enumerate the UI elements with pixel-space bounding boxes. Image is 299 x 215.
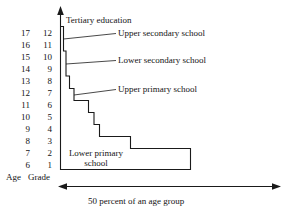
- annotation-leader-lines: [64, 34, 117, 96]
- age-tick-17: 17: [8, 28, 30, 38]
- education-pyramid-figure: Tertiary education 17 16 15 14 13 12 11 …: [0, 0, 299, 215]
- age-tick-11: 11: [8, 100, 30, 110]
- grade-tick-10: 10: [30, 52, 52, 62]
- grade-tick-8: 8: [30, 76, 52, 86]
- age-tick-6: 6: [8, 160, 30, 170]
- grade-tick-3: 3: [30, 136, 52, 146]
- age-tick-8: 8: [8, 136, 30, 146]
- age-tick-7: 7: [8, 148, 30, 158]
- age-tick-16: 16: [8, 40, 30, 50]
- age-tick-9: 9: [8, 124, 30, 134]
- grade-tick-9: 9: [30, 64, 52, 74]
- leader-line-upper-secondary: [64, 34, 117, 40]
- annotation-lower-primary-line2: school: [62, 158, 130, 169]
- y-axis: [57, 6, 64, 170]
- annotation-upper-primary-school: Upper primary school: [118, 84, 197, 94]
- x-axis-measure-arrow: [58, 183, 281, 190]
- age-tick-15: 15: [8, 52, 30, 62]
- grade-tick-5: 5: [30, 112, 52, 122]
- leader-line-upper-primary: [74, 90, 116, 96]
- grade-tick-6: 6: [30, 100, 52, 110]
- leader-line-lower-secondary: [66, 61, 116, 65]
- grade-tick-2: 2: [30, 148, 52, 158]
- age-column-header: Age: [6, 172, 21, 182]
- grade-column-header: Grade: [28, 172, 50, 182]
- grade-tick-4: 4: [30, 124, 52, 134]
- age-tick-13: 13: [8, 76, 30, 86]
- age-tick-14: 14: [8, 64, 30, 74]
- age-tick-12: 12: [8, 88, 30, 98]
- annotation-lower-secondary-school: Lower secondary school: [118, 55, 206, 65]
- annotation-upper-secondary-school: Upper secondary school: [118, 28, 205, 38]
- grade-tick-12: 12: [30, 28, 52, 38]
- x-axis-caption: 50 percent of an age group: [88, 196, 184, 207]
- age-tick-10: 10: [8, 112, 30, 122]
- tertiary-education-label: Tertiary education: [66, 15, 132, 25]
- grade-tick-7: 7: [30, 88, 52, 98]
- grade-tick-1: 1: [30, 160, 52, 170]
- grade-tick-11: 11: [30, 40, 52, 50]
